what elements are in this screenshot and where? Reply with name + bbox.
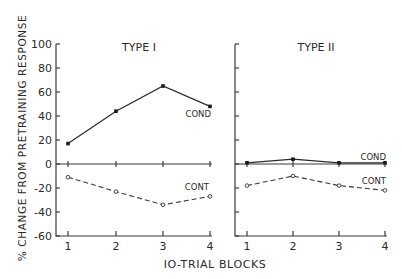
series-label-cond: COND xyxy=(360,152,386,162)
panel-type-1: TYPE I 1234CONDCONT xyxy=(56,41,214,253)
data-point xyxy=(291,157,295,161)
y-axis-label: % CHANGE FROM PRETRAINING RESPONSE xyxy=(16,15,28,262)
y-tick-label: -20 xyxy=(34,182,52,195)
data-point xyxy=(114,109,118,113)
axis-frame xyxy=(235,44,387,236)
data-point xyxy=(245,161,249,165)
data-point xyxy=(66,175,70,179)
y-tick-label: -60 xyxy=(34,230,52,243)
panel-title: TYPE I xyxy=(121,41,156,54)
data-point xyxy=(161,84,165,88)
data-point xyxy=(114,190,118,194)
x-tick-label: 4 xyxy=(382,240,389,253)
y-tick-label: 80 xyxy=(38,62,52,75)
y-tick-label: 20 xyxy=(38,134,52,147)
panel-type-2: TYPE II 1234CONDCONT xyxy=(235,41,389,253)
axis-frame xyxy=(56,44,212,236)
x-tick-label: 1 xyxy=(244,240,251,253)
x-tick-label: 4 xyxy=(207,240,214,253)
data-point xyxy=(383,189,387,193)
chart: % CHANGE FROM PRETRAINING RESPONSE 10080… xyxy=(0,0,402,279)
y-tick-label: 40 xyxy=(38,110,52,123)
y-tick-label: 100 xyxy=(31,38,52,51)
data-point xyxy=(337,184,341,188)
series-label-cond: COND xyxy=(185,109,211,119)
y-tick-label: -40 xyxy=(34,206,52,219)
data-point xyxy=(66,142,70,146)
x-tick-label: 1 xyxy=(65,240,72,253)
x-tick-label: 3 xyxy=(160,240,167,253)
panel-title: TYPE II xyxy=(296,41,334,54)
x-tick-label: 2 xyxy=(113,240,120,253)
series-label-cont: CONT xyxy=(185,182,210,192)
series-label-cont: CONT xyxy=(362,176,387,186)
x-tick-label: 3 xyxy=(336,240,343,253)
y-tick-label: 0 xyxy=(45,158,52,171)
data-point xyxy=(337,161,341,165)
data-point xyxy=(161,203,165,207)
x-tick-label: 2 xyxy=(290,240,297,253)
data-point xyxy=(245,184,249,188)
x-axis-label: IO-TRIAL BLOCKS xyxy=(164,258,267,271)
data-point xyxy=(208,105,212,109)
data-point xyxy=(208,195,212,199)
y-tick-label: 60 xyxy=(38,86,52,99)
data-point xyxy=(291,174,295,178)
y-tick-labels: 100806040200-20-40-60 xyxy=(31,38,52,243)
